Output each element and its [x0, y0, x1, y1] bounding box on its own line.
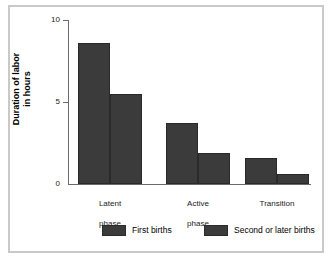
x-axis-line: [68, 184, 311, 185]
bar-latent-phase-second-or-later-births: [110, 94, 142, 184]
bar-latent-phase-first-births: [78, 43, 110, 184]
y-tick-label-10: 10: [40, 15, 60, 24]
legend-swatch-icon-second-or-later-births: [204, 225, 228, 236]
legend-item-first-births: First births: [102, 222, 172, 238]
bar-transition-first-births: [245, 158, 277, 184]
legend-label-first-births: First births: [132, 225, 172, 235]
y-tick-mark-5: [63, 102, 69, 103]
legend-swatch-icon-first-births: [102, 225, 126, 236]
legend-label-second-or-later-births: Second or later births: [234, 225, 315, 235]
legend-item-second-or-later-births: Second or later births: [204, 222, 315, 238]
bar-active-phase-second-or-later-births: [198, 153, 230, 184]
y-tick-label-0: 0: [40, 179, 60, 188]
y-axis-title-line1: Duration of labor: [11, 53, 21, 126]
bar-transition-second-or-later-births: [277, 174, 309, 184]
x-label-line1: Transition: [260, 199, 295, 208]
y-tick-label-5: 5: [40, 97, 60, 106]
figure-container: Duration of labor in hours 10 5 0 Latent…: [0, 0, 332, 262]
y-axis-title: Duration of labor in hours: [11, 29, 33, 149]
bar-active-phase-first-births: [166, 123, 198, 184]
x-label-line1: Active: [187, 199, 209, 208]
plot-area: Duration of labor in hours 10 5 0 Latent…: [0, 0, 332, 262]
y-tick-mark-10: [63, 20, 69, 21]
y-axis-title-line2: in hours: [22, 71, 32, 107]
chart-legend: First births Second or later births: [68, 222, 312, 242]
x-label-line1: Latent: [99, 199, 121, 208]
